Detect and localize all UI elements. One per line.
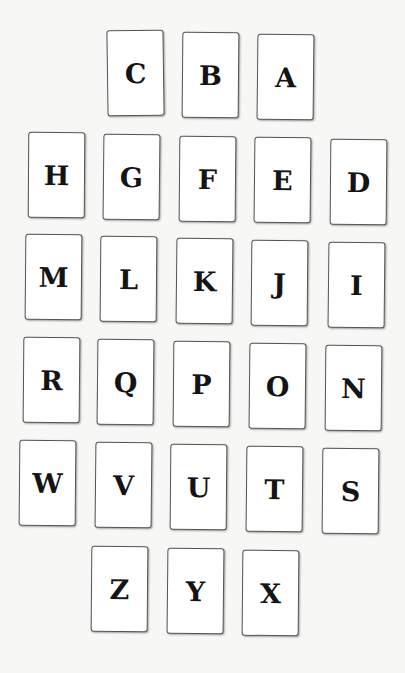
letter-card-m: M [25, 234, 83, 320]
card-letter: W [32, 469, 63, 496]
card-letter: B [199, 61, 222, 88]
letter-card-d: D [330, 139, 388, 225]
letter-card-o: O [249, 343, 307, 430]
letter-card-g: G [103, 134, 161, 221]
card-letter: Y [186, 577, 206, 604]
card-letter: T [264, 475, 284, 502]
letter-card-z: Z [91, 546, 149, 632]
letter-card-y: Y [167, 548, 225, 635]
letter-card-s: S [322, 448, 380, 534]
letter-card-x: X [242, 550, 300, 636]
card-letter: X [260, 579, 281, 606]
card-letter: F [198, 165, 217, 192]
letter-card-q: Q [97, 339, 155, 426]
letter-card-i: I [328, 242, 386, 329]
card-letter: Q [114, 368, 138, 395]
card-letter: E [272, 166, 293, 193]
card-letter: J [273, 269, 286, 296]
letter-card-b: B [182, 32, 240, 118]
card-letter: C [125, 59, 147, 86]
card-letter: I [350, 271, 363, 298]
letter-card-e: E [254, 137, 312, 224]
card-letter: S [341, 477, 361, 504]
card-letter: G [120, 163, 143, 190]
letter-card-j: J [251, 240, 309, 326]
card-letter: V [113, 471, 134, 498]
card-letter: A [275, 63, 296, 90]
card-letter: O [266, 372, 290, 399]
letter-card-c: C [106, 30, 164, 117]
card-letter: N [341, 374, 366, 401]
card-letter: Z [110, 575, 130, 602]
letter-card-a: A [257, 34, 315, 121]
letter-card-w: W [19, 440, 77, 526]
letter-card-n: N [325, 345, 383, 431]
card-letter: H [44, 161, 70, 188]
letter-card-p: P [173, 341, 231, 427]
card-letter: U [187, 473, 211, 500]
letter-card-v: V [95, 442, 153, 529]
letter-card-h: H [28, 132, 86, 218]
card-letter: P [191, 370, 212, 397]
card-letter: L [119, 265, 138, 292]
letter-card-r: R [23, 337, 81, 423]
letter-card-k: K [176, 238, 234, 325]
card-letter: R [40, 366, 63, 393]
card-letter: D [347, 168, 371, 195]
card-letter: M [38, 263, 68, 290]
letter-card-f: F [179, 136, 237, 222]
letter-card-t: T [246, 446, 304, 533]
card-letter: K [193, 267, 217, 294]
letter-card-l: L [100, 236, 158, 322]
letter-card-u: U [170, 444, 228, 530]
